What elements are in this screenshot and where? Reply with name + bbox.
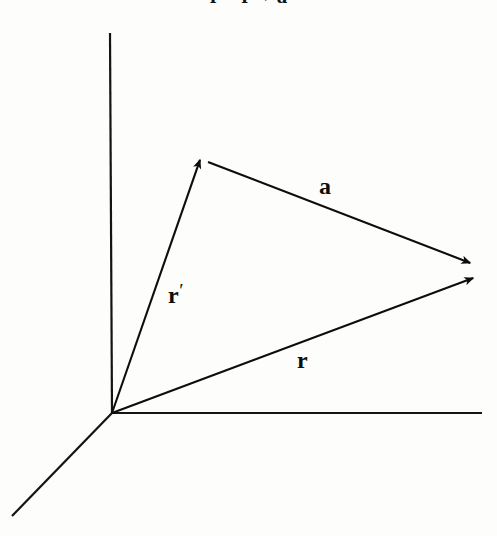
vector-r <box>112 278 473 413</box>
vector-label-a: a <box>319 174 331 198</box>
caption-equation: r = r′ + a <box>0 0 497 7</box>
vector-label-r-text: r <box>297 347 308 373</box>
vector-label-r: r <box>297 348 308 372</box>
axes-group <box>12 33 482 516</box>
vector-diagram-figure: a r′ r r = r′ + a <box>0 0 497 536</box>
vector-a <box>208 162 470 263</box>
equation-term-a: a <box>277 0 288 7</box>
equation-operator-equals: = <box>224 0 236 7</box>
equation-lhs: r <box>210 0 219 7</box>
vertical-axis <box>110 33 112 413</box>
vectors-group <box>112 160 473 413</box>
equation-term-r-prime: r <box>241 0 250 7</box>
vector-label-r-prime-text: r <box>168 282 179 308</box>
prime-mark-icon: ′ <box>179 279 183 301</box>
vector-label-r-prime: r′ <box>168 281 183 307</box>
diagram-canvas <box>0 0 497 536</box>
equation-operator-plus: + <box>260 0 272 7</box>
cropped-caption-strip: r = r′ + a <box>0 0 497 7</box>
vector-r-prime <box>112 160 200 413</box>
vector-label-a-text: a <box>319 173 331 199</box>
depth-axis <box>12 413 112 516</box>
